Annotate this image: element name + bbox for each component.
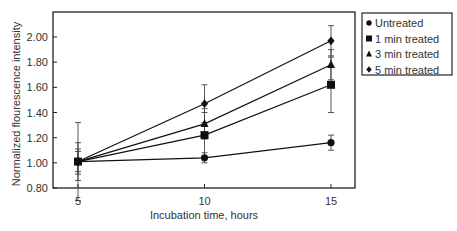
- circle-marker: [327, 139, 334, 146]
- square-marker: [327, 81, 335, 89]
- circle-marker: [201, 154, 208, 161]
- chart-container: 0.801.001.201.401.601.802.0051015Incubat…: [0, 0, 457, 231]
- y-tick-label: 1.20: [27, 132, 48, 144]
- square-marker: [201, 131, 209, 139]
- legend-label: 5 min treated: [375, 64, 439, 76]
- diamond-marker: [327, 36, 334, 45]
- legend-label: 3 min treated: [375, 48, 439, 60]
- y-tick-label: 1.60: [27, 81, 48, 93]
- y-tick-label: 1.00: [27, 157, 48, 169]
- y-tick-label: 2.00: [27, 31, 48, 43]
- triangle-marker: [327, 60, 335, 68]
- y-tick-label: 0.80: [27, 182, 48, 194]
- y-tick-label: 1.40: [27, 107, 48, 119]
- legend-square-icon: [366, 36, 372, 42]
- y-tick-label: 1.80: [27, 56, 48, 68]
- diamond-marker: [201, 99, 208, 108]
- x-tick-label: 10: [198, 195, 210, 207]
- line-chart: 0.801.001.201.401.601.802.0051015Incubat…: [0, 0, 457, 231]
- x-tick-label: 15: [325, 195, 337, 207]
- legend-label: Untreated: [375, 17, 423, 29]
- x-axis-label: Incubation time, hours: [150, 209, 259, 221]
- legend-circle-icon: [366, 20, 371, 25]
- y-axis-label: Normalized flourescence intensity: [10, 21, 22, 186]
- legend-label: 1 min treated: [375, 33, 439, 45]
